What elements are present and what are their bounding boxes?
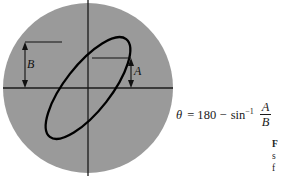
equation-inverse-exponent: −1: [245, 108, 254, 116]
caption-line-1: F: [272, 138, 286, 150]
dimension-label-b: B: [27, 57, 34, 72]
dimension-label-a: A: [134, 64, 141, 79]
lissajous-figure-svg: [0, 0, 286, 176]
equation-theta-symbol: θ: [176, 109, 184, 122]
figure-caption-clipped: F s f: [272, 138, 286, 174]
equation-fraction-a-over-b: A B: [260, 101, 272, 129]
equation-minus-sign: −: [217, 109, 230, 122]
equation-degrees-value: 180: [197, 109, 216, 122]
figure-container: B A θ = 180 − sin −1 A B F s f: [0, 0, 286, 176]
phase-angle-equation: θ = 180 − sin −1 A B: [176, 101, 271, 129]
equation-equals-sign: =: [184, 109, 197, 122]
equation-fraction-denominator: B: [260, 116, 272, 129]
equation-fraction-numerator: A: [260, 101, 272, 114]
caption-line-3: f: [272, 162, 286, 174]
equation-arcsin-function: sin: [230, 109, 246, 122]
caption-line-2: s: [272, 150, 286, 162]
